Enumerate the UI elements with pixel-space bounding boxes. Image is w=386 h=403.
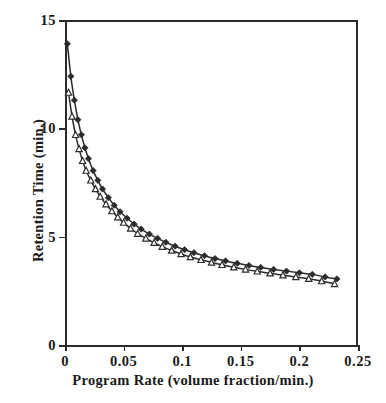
x-tick-mark xyxy=(65,345,67,351)
data-point-open-triangle xyxy=(79,157,85,163)
x-tick-mark xyxy=(358,345,360,351)
y-tick-label: 0 xyxy=(48,337,56,354)
data-point-filled-diamond xyxy=(71,97,77,103)
data-point-open-triangle xyxy=(72,131,78,137)
data-point-filled-diamond xyxy=(95,177,101,183)
data-point-filled-diamond xyxy=(78,132,84,138)
data-point-filled-diamond xyxy=(68,73,74,79)
x-tick-label: 0.05 xyxy=(110,353,137,370)
x-tick-label: 0.2 xyxy=(290,353,310,370)
y-axis-title: Retention Time (min.) xyxy=(30,81,47,301)
x-tick-mark xyxy=(241,345,243,351)
data-point-open-triangle xyxy=(88,177,94,183)
plot-area: 051015 00.050.10.150.20.25 xyxy=(65,20,358,345)
y-tick-label: 5 xyxy=(48,228,56,245)
x-tick-label: 0.15 xyxy=(227,353,254,370)
x-tick-label: 0.25 xyxy=(344,353,371,370)
data-point-filled-diamond xyxy=(64,41,70,47)
data-point-open-triangle xyxy=(83,167,89,173)
x-tick-mark xyxy=(182,345,184,351)
data-point-filled-diamond xyxy=(154,235,160,241)
series-upper-curve xyxy=(64,41,340,282)
data-point-filled-diamond xyxy=(172,243,178,249)
x-tick-label: 0 xyxy=(61,353,69,370)
data-point-filled-diamond xyxy=(146,231,152,237)
x-tick-mark xyxy=(124,345,126,351)
x-axis-title: Program Rate (volume fraction/min.) xyxy=(0,372,386,389)
x-tick-mark xyxy=(299,345,301,351)
series-line xyxy=(67,44,337,279)
series-lower-curve xyxy=(65,89,337,286)
x-axis-spine xyxy=(65,345,358,347)
data-point-filled-diamond xyxy=(163,239,169,245)
x-tick-label: 0.1 xyxy=(172,353,192,370)
data-point-filled-diamond xyxy=(82,145,88,151)
data-point-open-triangle xyxy=(69,113,75,119)
data-point-filled-diamond xyxy=(181,247,187,253)
chart-figure: 051015 00.050.10.150.20.25 Program Rate … xyxy=(0,0,386,403)
data-point-filled-diamond xyxy=(85,156,91,162)
data-point-filled-diamond xyxy=(191,250,197,256)
data-point-open-triangle xyxy=(76,146,82,152)
y-tick-label: 15 xyxy=(41,12,57,29)
data-point-filled-diamond xyxy=(309,271,315,277)
data-series-layer xyxy=(65,20,358,345)
data-point-filled-diamond xyxy=(90,167,96,173)
data-point-open-triangle xyxy=(65,89,71,95)
